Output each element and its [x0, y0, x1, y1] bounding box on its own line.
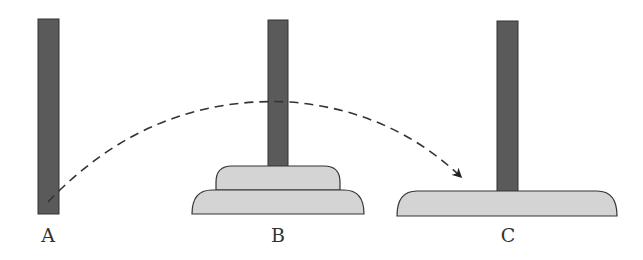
peg-c [497, 21, 518, 192]
disk-b-large [192, 190, 364, 214]
peg-b [268, 20, 288, 168]
peg-c-label: C [493, 224, 523, 246]
peg-a-label: A [33, 224, 63, 246]
peg-b-label: B [263, 224, 293, 246]
hanoi-diagram [0, 0, 643, 260]
peg-a [38, 19, 59, 214]
disk-c-large [397, 191, 617, 216]
disk-b-small [216, 166, 340, 190]
